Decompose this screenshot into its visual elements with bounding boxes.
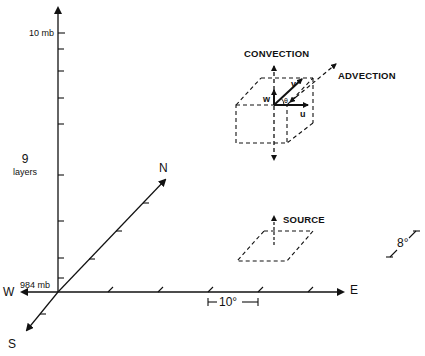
south-label: S xyxy=(8,338,16,350)
bottom-pressure-label: 984 mb xyxy=(20,281,50,290)
top-pressure-label: 10 mb xyxy=(29,29,54,38)
vertical-pressure-axis xyxy=(58,8,65,292)
u-vector-label: u xyxy=(300,110,306,119)
source-label: SOURCE xyxy=(283,215,325,225)
north-axis-ticks xyxy=(40,203,149,314)
grid-schematic-diagram xyxy=(0,0,425,356)
v-vector xyxy=(274,79,302,105)
convection-label: CONVECTION xyxy=(244,49,309,59)
v-vector-label: v xyxy=(291,80,296,89)
east-west-axis xyxy=(22,287,343,292)
east-axis-ticks xyxy=(108,287,313,292)
west-label: W xyxy=(3,286,14,298)
w-vector-label: w xyxy=(263,95,270,104)
latitude-scale-label: 8° xyxy=(397,237,408,249)
north-label: N xyxy=(159,162,168,174)
layer-word-label: layers xyxy=(9,168,41,177)
north-south-axis xyxy=(27,180,165,330)
layer-count-label: 9 xyxy=(19,153,31,165)
longitude-scale-label: 10° xyxy=(219,296,237,308)
advection-label: ADVECTION xyxy=(338,71,396,81)
east-label: E xyxy=(350,284,358,296)
vertical-axis-ticks xyxy=(58,33,65,278)
theta-label: θ xyxy=(284,97,288,104)
